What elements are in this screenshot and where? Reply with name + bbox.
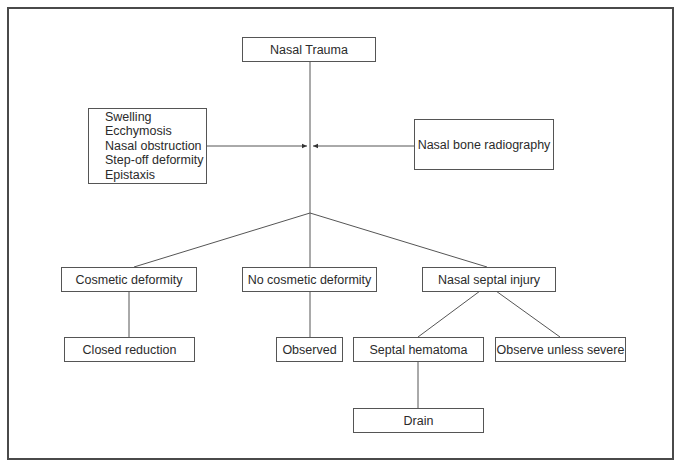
link-observe-unless-severe [496,291,560,337]
branch-cosmetic [134,213,310,267]
node-drain: Drain [353,408,484,433]
link-septal-hematoma [418,291,480,337]
node-nasal-trauma: Nasal Trauma [242,37,376,62]
node-label: Observed [282,343,336,357]
sign-item: Step-off deformity [105,153,203,168]
node-observe-unless-severe: Observe unless severe [495,337,626,362]
node-label: Drain [404,414,434,428]
node-cosmetic-deformity: Cosmetic deformity [61,267,197,292]
branch-septal [310,213,487,267]
connector-lines [0,0,679,466]
node-label: Observe unless severe [497,343,625,357]
node-observed: Observed [276,337,343,362]
sign-item: Epistaxis [105,168,155,183]
node-label: Cosmetic deformity [76,273,183,287]
node-nasal-septal-injury: Nasal septal injury [422,267,556,292]
node-label: Septal hematoma [370,343,468,357]
sign-item: Nasal obstruction [105,139,202,154]
sign-item: Ecchymosis [105,124,172,139]
node-label: Closed reduction [83,343,177,357]
sign-item: Swelling [105,110,152,125]
node-radiography: Nasal bone radiography [414,119,554,170]
node-label: Nasal bone radiography [418,138,551,152]
node-clinical-signs: Swelling Ecchymosis Nasal obstruction St… [88,108,207,184]
node-no-cosmetic-deformity: No cosmetic deformity [242,267,377,292]
node-septal-hematoma: Septal hematoma [353,337,484,362]
node-closed-reduction: Closed reduction [64,337,195,362]
node-label: No cosmetic deformity [248,273,372,287]
node-label: Nasal Trauma [270,43,348,57]
node-label: Nasal septal injury [438,273,540,287]
